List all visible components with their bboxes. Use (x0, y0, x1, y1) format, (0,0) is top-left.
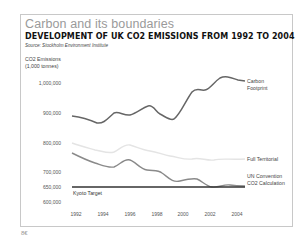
line-un-convention (72, 153, 245, 187)
chart-plot-area (0, 0, 308, 239)
label-un-convention: UN Convention CO2 Calculation (247, 173, 285, 187)
label-kyoto-target: Kyoto Target (73, 190, 102, 196)
corner-mark: 8€ (21, 230, 28, 236)
label-un-convention-line1: UN Convention (247, 173, 285, 180)
label-carbon-footprint-line1: Carbon (247, 78, 267, 85)
line-carbon-footprint (72, 77, 245, 123)
label-carbon-footprint-line2: Footprint (247, 85, 267, 92)
label-carbon-footprint: Carbon Footprint (247, 78, 267, 92)
label-un-convention-line2: CO2 Calculation (247, 180, 285, 187)
label-full-territorial: Full Territorial (247, 156, 278, 163)
line-full-territorial (72, 143, 245, 160)
